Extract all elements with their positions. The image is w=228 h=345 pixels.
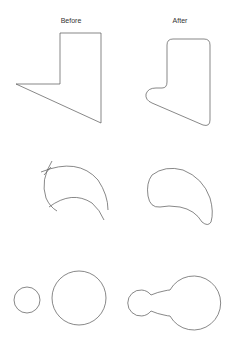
before-intersecting-arcs: [41, 161, 108, 220]
after-crescent-shape: [148, 168, 213, 224]
before-polygon: [16, 33, 101, 123]
before-separate-circles: [14, 271, 106, 325]
diagram-canvas: [0, 0, 228, 345]
after-rounded-polygon: [146, 39, 210, 125]
after-blended-circles: [128, 276, 221, 330]
